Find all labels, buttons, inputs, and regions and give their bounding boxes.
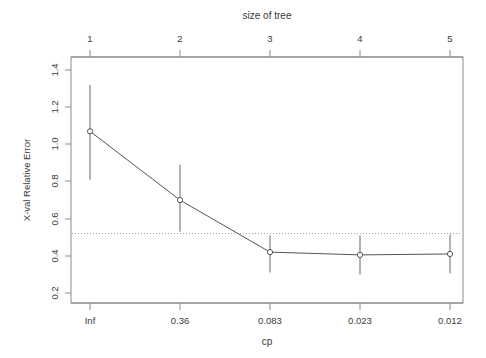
top-tick-label: 2 bbox=[177, 33, 182, 44]
y-tick-label: 0.6 bbox=[49, 212, 60, 225]
top-tick-label: 5 bbox=[447, 33, 452, 44]
y-tick-label: 1.4 bbox=[49, 63, 60, 76]
top-axis-tick-labels: 1 2 3 4 5 bbox=[87, 33, 452, 44]
y-axis-title: X-val Relative Error bbox=[21, 139, 32, 221]
data-point-marker bbox=[267, 250, 272, 255]
bottom-tick-label: 0.012 bbox=[438, 315, 462, 326]
data-point-marker bbox=[357, 252, 362, 257]
y-axis-tick-labels: 0.2 0.4 0.6 0.8 1.0 1.2 1.4 bbox=[49, 63, 60, 299]
data-point-marker bbox=[87, 129, 92, 134]
top-tick-label: 4 bbox=[357, 33, 362, 44]
data-point-marker bbox=[177, 197, 182, 202]
bottom-tick-label: 0.083 bbox=[258, 315, 282, 326]
top-axis-title: size of tree bbox=[243, 10, 292, 21]
bottom-tick-label: 0.36 bbox=[171, 315, 190, 326]
bottom-axis bbox=[71, 303, 463, 310]
y-tick-label: 1.2 bbox=[49, 100, 60, 113]
plot-panel-border bbox=[71, 57, 463, 303]
plotcp-chart: 0.2 0.4 0.6 0.8 1.0 1.2 1.4 X-val Relati… bbox=[0, 0, 486, 358]
bottom-tick-label: Inf bbox=[85, 315, 96, 326]
bottom-axis-tick-labels: Inf 0.36 0.083 0.023 0.012 bbox=[85, 315, 462, 326]
y-tick-label: 0.4 bbox=[49, 249, 60, 262]
y-tick-label: 1.0 bbox=[49, 137, 60, 150]
bottom-tick-label: 0.023 bbox=[348, 315, 372, 326]
error-bars bbox=[90, 85, 450, 275]
top-axis bbox=[71, 50, 463, 57]
top-tick-label: 1 bbox=[87, 33, 92, 44]
y-tick-label: 0.2 bbox=[49, 286, 60, 299]
data-point-marker bbox=[447, 251, 452, 256]
y-axis-ticks bbox=[65, 70, 71, 293]
x-axis-title: cp bbox=[262, 336, 273, 347]
top-tick-label: 3 bbox=[267, 33, 272, 44]
y-tick-label: 0.8 bbox=[49, 174, 60, 187]
chart-canvas: 0.2 0.4 0.6 0.8 1.0 1.2 1.4 X-val Relati… bbox=[0, 0, 486, 358]
